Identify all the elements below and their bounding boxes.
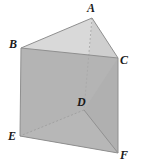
vertex-label-B: B [9,38,17,50]
geometry-figure: A B C D E F [0,0,143,167]
vertex-label-E: E [8,130,16,142]
vertex-label-A: A [87,2,95,14]
vertex-label-D: D [77,96,86,108]
vertex-label-C: C [120,54,128,66]
prism-drawing [0,0,143,167]
vertex-label-F: F [120,149,128,161]
